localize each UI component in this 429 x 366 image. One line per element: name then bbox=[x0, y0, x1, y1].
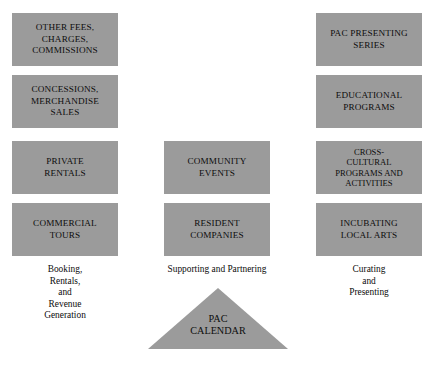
caption-revenue: Booking, Rentals, and Revenue Generation bbox=[12, 264, 118, 322]
pac-calendar-label: PAC CALENDAR bbox=[148, 313, 288, 338]
box-label: COMMERCIAL TOURS bbox=[33, 218, 97, 241]
caption-programming: Curating and Presenting bbox=[316, 264, 422, 299]
box-label: PRIVATE RENTALS bbox=[44, 156, 86, 179]
box-label: RESIDENT COMPANIES bbox=[190, 218, 244, 241]
box-label: EDUCATIONAL PROGRAMS bbox=[336, 90, 402, 113]
box-incubating-local-arts[interactable]: INCUBATING LOCAL ARTS bbox=[316, 203, 422, 256]
box-label: COMMUNITY EVENTS bbox=[187, 156, 246, 179]
box-private-rentals[interactable]: PRIVATE RENTALS bbox=[12, 141, 118, 194]
box-resident-companies[interactable]: RESIDENT COMPANIES bbox=[164, 203, 270, 256]
box-community-events[interactable]: COMMUNITY EVENTS bbox=[164, 141, 270, 194]
box-pac-presenting-series[interactable]: PAC PRESENTING SERIES bbox=[316, 13, 422, 66]
box-label: CONCESSIONS, MERCHANDISE SALES bbox=[31, 84, 99, 118]
pac-calendar-triangle[interactable]: PAC CALENDAR bbox=[148, 288, 288, 349]
box-label: CROSS- CULTURAL PROGRAMS AND ACTIVITIES bbox=[335, 147, 403, 188]
box-cross-cultural-programs-and-activities[interactable]: CROSS- CULTURAL PROGRAMS AND ACTIVITIES bbox=[316, 141, 422, 194]
box-concessions-merchandise-sales[interactable]: CONCESSIONS, MERCHANDISE SALES bbox=[12, 75, 118, 128]
box-label: PAC PRESENTING SERIES bbox=[330, 28, 408, 51]
box-educational-programs[interactable]: EDUCATIONAL PROGRAMS bbox=[316, 75, 422, 128]
box-label: INCUBATING LOCAL ARTS bbox=[340, 218, 398, 241]
box-other-fees-charges-commissions[interactable]: OTHER FEES, CHARGES, COMMISSIONS bbox=[12, 13, 118, 66]
box-commercial-tours[interactable]: COMMERCIAL TOURS bbox=[12, 203, 118, 256]
pac-strategy-diagram: OTHER FEES, CHARGES, COMMISSIONS CONCESS… bbox=[0, 0, 429, 366]
caption-community: Supporting and Partnering bbox=[144, 264, 290, 276]
box-label: OTHER FEES, CHARGES, COMMISSIONS bbox=[32, 22, 97, 56]
